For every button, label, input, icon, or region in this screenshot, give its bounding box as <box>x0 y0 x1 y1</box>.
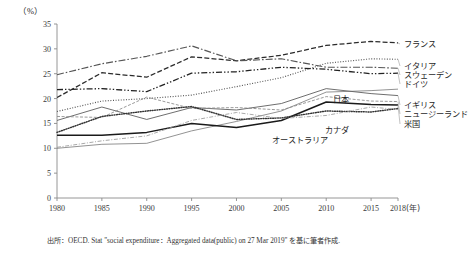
y-tick-label: 5 <box>47 169 51 178</box>
source-note: 出所：OECD. Stat "social expenditure：Aggreg… <box>47 235 340 245</box>
y-tick-label: 20 <box>43 95 51 104</box>
legend-item-5: ニュージーランド <box>404 110 468 118</box>
y-tick-label: 15 <box>43 119 51 128</box>
y-tick-label: 35 <box>43 20 51 29</box>
series-line-germany <box>57 67 398 91</box>
legend-item-3: ドイツ <box>404 80 428 88</box>
x-tick-label: 1985 <box>94 204 110 213</box>
legend-item-4: イギリス <box>404 101 436 109</box>
legend-item-2: スウェーデン <box>404 71 452 79</box>
x-tick-label: 2018 <box>390 204 406 213</box>
y-tick-label: 25 <box>43 70 51 79</box>
y-tick-label: 30 <box>43 45 51 54</box>
legend-leader-line <box>398 43 400 44</box>
y-tick-label: 10 <box>43 144 51 153</box>
inline-label-2: オーストラリア <box>272 136 328 144</box>
x-tick-label: 2015 <box>363 204 379 213</box>
x-axis-unit-label: (年) <box>406 203 420 213</box>
inline-label-1: カナダ <box>325 126 349 134</box>
x-tick-label: 1995 <box>184 204 200 213</box>
inline-label-0: 日本 <box>333 95 349 103</box>
x-tick-label: 1980 <box>49 204 65 213</box>
legend-item-6: 米国 <box>404 120 420 128</box>
axes-group: 0510152025303519801985199019952000200520… <box>43 20 420 213</box>
legend-item-0: フランス <box>404 40 436 48</box>
x-tick-label: 2005 <box>273 204 289 213</box>
series-line-france <box>57 41 398 97</box>
x-tick-label: 1990 <box>139 204 155 213</box>
y-tick-label: 0 <box>47 194 51 203</box>
legend-leader-line <box>398 59 400 66</box>
legend-item-1: イタリア <box>404 62 436 70</box>
legend-leader-lines <box>398 43 400 124</box>
x-tick-label: 2010 <box>318 204 334 213</box>
x-tick-label: 2000 <box>228 204 244 213</box>
